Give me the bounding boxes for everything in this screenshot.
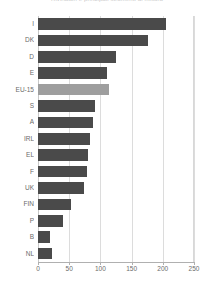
bar-chart: Rivelatori e principali strumenti di mis… xyxy=(0,0,214,301)
category-label: IRL xyxy=(0,131,34,147)
category-label: EU-15 xyxy=(0,82,34,98)
bar-row[interactable]: I xyxy=(0,16,214,32)
category-label: F xyxy=(0,164,34,180)
chart-title: Rivelatori e principali strumenti di mis… xyxy=(0,0,214,4)
x-tick-250 xyxy=(194,262,195,265)
category-label: FIN xyxy=(0,196,34,212)
bar-row[interactable]: EU-15 xyxy=(0,82,214,98)
x-tick-50 xyxy=(69,262,70,265)
bar-P[interactable] xyxy=(38,215,63,227)
x-tick-200 xyxy=(163,262,164,265)
bar-F[interactable] xyxy=(38,166,87,178)
x-tick-label-200: 200 xyxy=(157,265,168,272)
category-label: S xyxy=(0,98,34,114)
x-tick-100 xyxy=(100,262,101,265)
bar-row[interactable]: DK xyxy=(0,32,214,48)
x-tick-label-100: 100 xyxy=(95,265,106,272)
bar-row[interactable]: IRL xyxy=(0,131,214,147)
x-axis-tick-labels: 050100150200250 xyxy=(0,265,214,277)
bar-row[interactable]: EL xyxy=(0,147,214,163)
bar-I[interactable] xyxy=(38,18,166,30)
bar-UK[interactable] xyxy=(38,182,84,194)
category-label: NL xyxy=(0,246,34,262)
bar-row[interactable]: S xyxy=(0,98,214,114)
x-tick-label-250: 250 xyxy=(189,265,200,272)
category-label: D xyxy=(0,49,34,65)
category-label: E xyxy=(0,65,34,81)
bar-A[interactable] xyxy=(38,117,93,129)
bar-S[interactable] xyxy=(38,100,95,112)
category-label: B xyxy=(0,229,34,245)
bar-rows: IDKDEEU-15SAIRLELFUKFINPBNL xyxy=(0,16,214,262)
x-tick-label-150: 150 xyxy=(126,265,137,272)
category-label: UK xyxy=(0,180,34,196)
bar-row[interactable]: UK xyxy=(0,180,214,196)
category-label: EL xyxy=(0,147,34,163)
bar-FIN[interactable] xyxy=(38,199,71,211)
x-tick-0 xyxy=(38,262,39,265)
bar-EU-15[interactable] xyxy=(38,84,109,96)
category-label: P xyxy=(0,213,34,229)
bar-row[interactable]: NL xyxy=(0,246,214,262)
bar-NL[interactable] xyxy=(38,248,52,260)
category-label: I xyxy=(0,16,34,32)
bar-D[interactable] xyxy=(38,51,116,63)
category-label: DK xyxy=(0,32,34,48)
bar-row[interactable]: D xyxy=(0,49,214,65)
category-label: A xyxy=(0,114,34,130)
bar-DK[interactable] xyxy=(38,35,148,47)
x-tick-label-0: 0 xyxy=(36,265,40,272)
bar-row[interactable]: F xyxy=(0,164,214,180)
x-axis-line xyxy=(38,262,194,263)
x-tick-label-50: 50 xyxy=(66,265,73,272)
bar-EL[interactable] xyxy=(38,149,88,161)
bar-IRL[interactable] xyxy=(38,133,90,145)
bar-B[interactable] xyxy=(38,231,50,243)
bar-row[interactable]: E xyxy=(0,65,214,81)
bar-row[interactable]: P xyxy=(0,213,214,229)
x-tick-150 xyxy=(132,262,133,265)
bar-row[interactable]: B xyxy=(0,229,214,245)
bar-row[interactable]: A xyxy=(0,114,214,130)
bar-E[interactable] xyxy=(38,67,107,79)
bar-row[interactable]: FIN xyxy=(0,196,214,212)
